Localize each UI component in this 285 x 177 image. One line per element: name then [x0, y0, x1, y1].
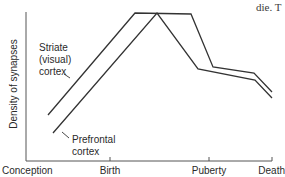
prefrontal-leader-line: [62, 132, 69, 138]
prefrontal-label-line-1: Prefrontal: [72, 134, 115, 145]
prefrontal-cortex-line: [53, 13, 272, 133]
x-tick-birth: Birth: [100, 165, 121, 176]
x-tick-death: Death: [258, 165, 285, 176]
striate-label-line-2: (visual): [39, 54, 71, 65]
prefrontal-label-line-2: cortex: [72, 146, 99, 157]
page-text-fragment: die. T: [256, 1, 282, 13]
striate-label-line-3: cortex: [39, 66, 66, 77]
striate-label: Striate (visual) cortex: [39, 42, 74, 77]
prefrontal-label: Prefrontal cortex: [72, 134, 118, 157]
y-axis-label: Density of synapses: [8, 39, 19, 129]
x-tick-conception: Conception: [2, 165, 53, 176]
x-tick-puberty: Puberty: [192, 165, 226, 176]
synapse-density-chart: Density of synapses Striate (visual) cor…: [0, 0, 285, 177]
striate-label-line-1: Striate: [39, 42, 68, 53]
